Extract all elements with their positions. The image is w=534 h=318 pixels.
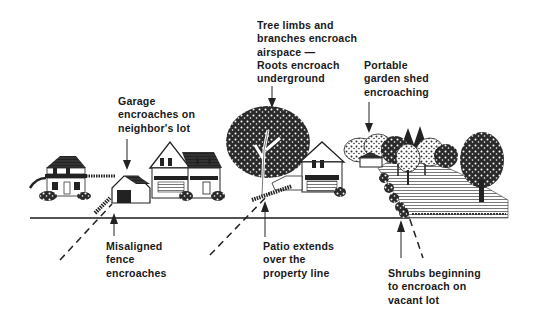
label-tree-encroachment: Tree limbs and branches encroach airspac… bbox=[257, 19, 357, 85]
arrow-garage bbox=[123, 139, 131, 170]
label-line: property line bbox=[263, 267, 334, 280]
property-line-left bbox=[60, 204, 112, 260]
house-left bbox=[30, 156, 116, 201]
label-shed-encroachment: Portable garden shed encroaching bbox=[364, 59, 429, 99]
label-line: branches encroach bbox=[257, 32, 357, 45]
arrow-tree bbox=[268, 86, 276, 108]
encroachment-diagram: Tree limbs and branches encroach airspac… bbox=[0, 0, 534, 318]
label-line: over the bbox=[263, 253, 334, 266]
label-line: neighbor's lot bbox=[118, 122, 195, 135]
arrow-shrubs bbox=[397, 220, 405, 258]
patio-fence bbox=[252, 186, 292, 200]
arrow-fence bbox=[110, 213, 118, 236]
label-line: encroaches bbox=[106, 267, 167, 280]
label-line: underground bbox=[257, 72, 357, 85]
label-line: encroaches on bbox=[118, 108, 195, 121]
label-line: Roots encroach bbox=[257, 59, 357, 72]
arrow-shed bbox=[365, 102, 373, 133]
label-line: vacant lot bbox=[388, 294, 481, 307]
label-line: Garage bbox=[118, 95, 195, 108]
label-line: fence bbox=[106, 253, 167, 266]
label-line: Misaligned bbox=[106, 240, 167, 253]
label-line: Tree limbs and bbox=[257, 19, 357, 32]
label-shrubs-encroachment: Shrubs beginning to encroach on vacant l… bbox=[388, 267, 481, 307]
house-two-story bbox=[150, 142, 225, 201]
label-line: garden shed bbox=[364, 72, 429, 85]
misaligned-fence bbox=[95, 198, 110, 213]
label-line: Portable bbox=[364, 59, 429, 72]
label-line: Patio extends bbox=[263, 240, 334, 253]
label-fence-encroachment: Misaligned fence encroaches bbox=[106, 240, 167, 280]
label-patio-encroachment: Patio extends over the property line bbox=[263, 240, 334, 280]
property-line-center bbox=[210, 193, 270, 255]
arrow-patio bbox=[261, 201, 269, 237]
label-line: encroaching bbox=[364, 86, 429, 99]
label-line: airspace — bbox=[257, 46, 357, 59]
garage bbox=[112, 176, 150, 203]
label-line: Shrubs beginning bbox=[388, 267, 481, 280]
label-line: to encroach on bbox=[388, 280, 481, 293]
label-garage-encroachment: Garage encroaches on neighbor's lot bbox=[118, 95, 195, 135]
